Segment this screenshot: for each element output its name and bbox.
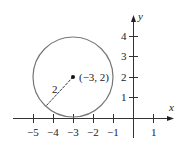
center-point: [71, 75, 75, 79]
x-tick-label: −1: [107, 126, 119, 138]
center-label: (−3, 2): [79, 71, 109, 84]
x-axis-arrow-icon: [167, 116, 174, 121]
x-tick-label: −4: [47, 126, 59, 138]
x-tick-label: −2: [87, 126, 99, 138]
x-tick-label: 1: [151, 126, 157, 138]
x-axis-label: x: [168, 101, 174, 113]
radius-line: [46, 77, 73, 106]
y-axis-label: y: [137, 10, 143, 22]
coordinate-diagram: x y −5 −4 −3 −2 −1 1 1 2 3 4 (−3, 2) 2: [0, 0, 185, 147]
y-tick-label: 1: [121, 91, 127, 103]
y-tick-label: 3: [121, 50, 127, 62]
x-tick-label: −5: [27, 126, 39, 138]
y-tick-label: 4: [121, 30, 127, 42]
y-axis-arrow-icon: [131, 15, 136, 22]
radius-label: 2: [52, 83, 58, 95]
x-tick-label: −3: [67, 126, 79, 138]
y-tick-label: 2: [121, 71, 127, 83]
